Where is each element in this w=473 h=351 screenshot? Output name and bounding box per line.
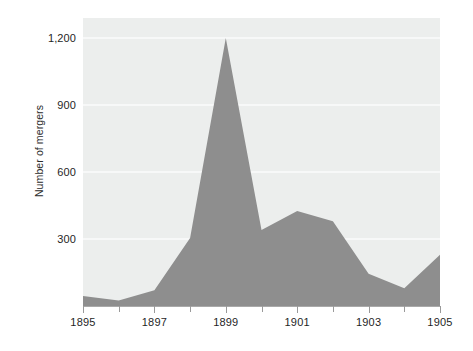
y-tick-label-300: 300 [34, 234, 76, 245]
x-major-tick-1895 [83, 306, 84, 313]
plot-svg [83, 18, 440, 306]
x-axis-tick-marks [83, 306, 440, 314]
x-major-tick-1905 [440, 306, 441, 313]
y-tick-label-900: 900 [34, 100, 76, 111]
x-tick-label-1895: 1895 [70, 316, 95, 329]
gridlines [83, 38, 440, 239]
x-tick-label-1901: 1901 [285, 316, 310, 329]
x-tick-label-1897: 1897 [142, 316, 167, 329]
x-minor-tick-1902 [333, 306, 334, 312]
y-axis-tick-labels: 3006009001,200 [34, 0, 76, 351]
x-major-tick-1899 [226, 306, 227, 313]
x-tick-label-1903: 1903 [356, 316, 381, 329]
x-minor-tick-1898 [190, 306, 191, 312]
x-tick-label-1899: 1899 [213, 316, 238, 329]
x-minor-tick-1896 [119, 306, 120, 312]
x-axis-tick-labels: 189518971899190119031905 [83, 316, 440, 332]
y-tick-label-600: 600 [34, 167, 76, 178]
x-minor-tick-1900 [262, 306, 263, 312]
y-tick-label-1,200: 1,200 [34, 33, 76, 44]
x-major-tick-1897 [154, 306, 155, 313]
x-minor-tick-1904 [404, 306, 405, 312]
x-tick-label-1905: 1905 [427, 316, 452, 329]
area-chart-figure: Number of mergers 3006009001,200 1895189… [0, 0, 473, 351]
x-major-tick-1901 [297, 306, 298, 313]
plot-area [83, 18, 440, 306]
x-major-tick-1903 [369, 306, 370, 313]
